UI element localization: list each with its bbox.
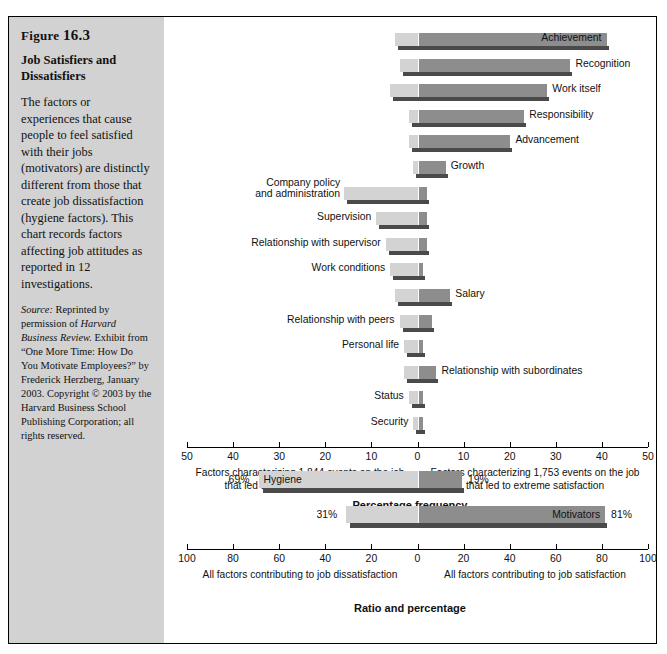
bar-dissatisfaction: [404, 340, 418, 353]
row-label: Relationship with subordinates: [441, 365, 582, 377]
x-axis-tick: [371, 442, 372, 447]
row-label: Work itself: [552, 83, 600, 95]
ratio-x-axis-tick-label: 0: [403, 553, 433, 564]
ratio-x-axis-tick-label: 100: [172, 553, 202, 564]
zero-line: [418, 311, 419, 328]
ratio-series-label: Hygiene: [264, 474, 302, 485]
ratio-x-axis-tick-label: 100: [633, 553, 663, 564]
bar-shadow: [398, 46, 610, 50]
bar-satisfaction: [418, 59, 570, 72]
row-label: Work conditions: [185, 262, 385, 274]
x-axis-tick: [556, 442, 557, 447]
source-text-2: Exhibit from “One More Time: How Do You …: [21, 332, 151, 441]
figure-number-label: Figure: [21, 28, 59, 43]
ratio-left-value: 69%: [229, 474, 250, 485]
bar-satisfaction: [418, 366, 436, 379]
x-axis-tick: [187, 442, 188, 447]
bar-satisfaction: [418, 110, 524, 123]
bar-dissatisfaction: [409, 391, 418, 404]
bar-shadow: [416, 174, 447, 178]
zero-line: [418, 336, 419, 353]
ratio-x-axis-tick-label: 80: [218, 553, 248, 564]
bar-dissatisfaction: [400, 315, 418, 328]
bar-shadow: [398, 302, 452, 306]
row-label: Responsibility: [529, 109, 593, 121]
figure-title: Job Satisfiers and Dissatisfiers: [21, 53, 152, 84]
bar-shadow: [412, 404, 425, 408]
ratio-bar-satisfaction: [418, 471, 462, 488]
bar-satisfaction: [418, 289, 450, 302]
ratio-x-axis-tick: [510, 544, 511, 549]
bar-shadow: [407, 353, 424, 357]
ratio-bar-shadow: [350, 523, 607, 528]
bar-shadow: [416, 430, 424, 434]
ratio-x-axis-tick: [325, 544, 326, 549]
ratio-zero-line: [418, 506, 419, 523]
row-label: Company policy and administration: [248, 177, 340, 200]
zero-line: [418, 157, 419, 174]
bar-dissatisfaction: [344, 187, 418, 200]
zero-line: [418, 285, 419, 302]
ratio-right-value: 19%: [468, 474, 489, 485]
bar-shadow: [379, 225, 429, 229]
ratio-x-axis-line: [187, 549, 648, 550]
ratio-right-axis-caption: All factors contributing to job satisfac…: [430, 568, 640, 581]
ratio-x-axis-tick-label: 40: [495, 553, 525, 564]
bar-dissatisfaction: [376, 212, 418, 225]
bar-shadow: [347, 200, 429, 204]
main-diverging-chart: AchievementRecognitionWork itselfRespons…: [164, 17, 656, 452]
bar-dissatisfaction: [395, 33, 418, 46]
zero-line: [418, 259, 419, 276]
ratio-x-axis-tick: [418, 544, 419, 549]
ratio-right-value: 81%: [611, 509, 632, 520]
ratio-x-axis-tick: [648, 544, 649, 549]
zero-line: [418, 208, 419, 225]
ratio-bar-shadow: [263, 488, 464, 493]
ratio-diverging-chart: 69%19%Hygiene31%81%Motivators10080604020…: [164, 457, 656, 643]
zero-line: [418, 387, 419, 404]
row-label: Salary: [455, 288, 484, 300]
row-label: Status: [204, 390, 404, 402]
ratio-x-axis-tick-label: 80: [587, 553, 617, 564]
x-axis-tick: [510, 442, 511, 447]
charts-area: AchievementRecognitionWork itselfRespons…: [164, 17, 656, 643]
row-label: Security: [208, 416, 408, 428]
ratio-x-axis-tick: [371, 544, 372, 549]
bar-shadow: [403, 328, 434, 332]
ratio-x-axis-tick-label: 20: [449, 553, 479, 564]
bar-shadow: [407, 379, 438, 383]
zero-line: [418, 362, 419, 379]
ratio-zero-line: [418, 471, 419, 488]
ratio-x-axis-tick: [602, 544, 603, 549]
bar-dissatisfaction: [395, 289, 418, 302]
row-label: Recognition: [575, 58, 630, 70]
ratio-x-axis-tick: [279, 544, 280, 549]
figure-screenshot: Figure 16.3 Job Satisfiers and Dissatisf…: [0, 0, 667, 654]
figure-caption-panel: Figure 16.3 Job Satisfiers and Dissatisf…: [9, 17, 164, 643]
row-label: Relationship with supervisor: [181, 237, 381, 249]
bar-satisfaction: [418, 315, 432, 328]
x-axis-tick: [279, 442, 280, 447]
bar-dissatisfaction: [386, 238, 418, 251]
bar-satisfaction: [418, 161, 446, 174]
bar-shadow: [412, 123, 527, 127]
zero-line: [418, 29, 419, 46]
bar-satisfaction: [418, 135, 510, 148]
zero-line: [418, 55, 419, 72]
bar-satisfaction: [418, 84, 547, 97]
zero-line: [418, 80, 419, 97]
zero-line: [418, 106, 419, 123]
bar-shadow: [403, 72, 573, 76]
row-label: Supervision: [171, 211, 371, 223]
bar-satisfaction: [418, 212, 427, 225]
row-label: Personal life: [199, 339, 399, 351]
bar-dissatisfaction: [400, 59, 418, 72]
bar-dissatisfaction: [404, 366, 418, 379]
figure-source-note: Source: Reprinted by permission of Harva…: [21, 303, 152, 442]
ratio-x-axis-tick: [556, 544, 557, 549]
bar-shadow: [389, 251, 430, 255]
bar-dissatisfaction: [390, 84, 418, 97]
bar-dissatisfaction: [409, 135, 418, 148]
zero-line: [418, 413, 419, 430]
ratio-x-axis-tick-label: 60: [541, 553, 571, 564]
